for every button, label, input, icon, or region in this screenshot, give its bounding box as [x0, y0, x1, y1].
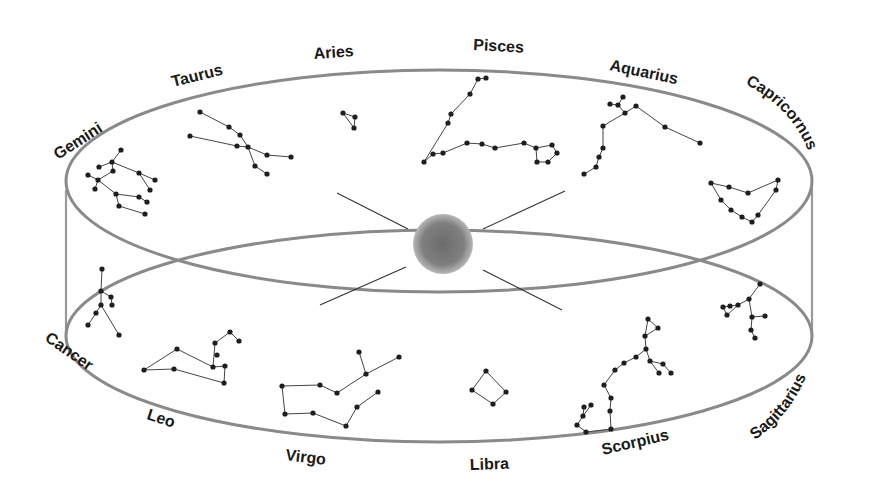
star-icon: [221, 380, 226, 385]
star-icon: [549, 142, 554, 147]
star-icon: [343, 423, 348, 428]
star-icon: [660, 361, 665, 366]
constellation-line: [472, 371, 506, 404]
star-icon: [356, 349, 361, 354]
star-icon: [340, 110, 345, 115]
star-icon: [93, 310, 98, 315]
star-icon: [98, 302, 103, 307]
star-icon: [612, 367, 617, 372]
star-icon: [588, 402, 593, 407]
star-icon: [96, 164, 101, 169]
star-icon: [317, 382, 322, 387]
star-icon: [533, 145, 538, 150]
sun-icon: [413, 214, 473, 274]
star-icon: [615, 102, 620, 107]
star-icon: [469, 387, 474, 392]
star-icon: [773, 187, 778, 192]
star-icon: [234, 143, 239, 148]
label-cancer: Cancer: [42, 329, 96, 374]
star-icon: [608, 426, 613, 431]
star-icon: [351, 125, 356, 130]
star-icon: [440, 150, 445, 155]
constellation-line: [625, 106, 700, 143]
constellation-pisces: [421, 75, 559, 164]
star-icon: [467, 91, 472, 96]
star-icon: [720, 304, 725, 309]
label-gemini: Gemini: [50, 119, 105, 163]
constellation-aries: [340, 110, 357, 130]
star-icon: [279, 383, 284, 388]
constellation-cancer: [85, 266, 121, 337]
star-icon: [596, 154, 601, 159]
constellation-taurus: [187, 109, 293, 176]
star-icon: [464, 140, 469, 145]
star-icon: [607, 408, 612, 413]
star-icon: [222, 363, 227, 368]
star-icon: [593, 164, 598, 169]
star-icon: [152, 177, 157, 182]
constellation-capricornus: [708, 177, 780, 224]
star-icon: [601, 382, 606, 387]
constellation-line: [359, 352, 399, 374]
star-icon: [718, 197, 723, 202]
star-icon: [492, 145, 497, 150]
star-icon: [214, 352, 219, 357]
star-icon: [197, 109, 202, 114]
star-icon: [620, 94, 625, 99]
star-icon: [748, 327, 753, 332]
star-icon: [749, 219, 754, 224]
star-icon: [113, 191, 118, 196]
star-icon: [656, 370, 661, 375]
star-icon: [116, 332, 121, 337]
star-icon: [92, 186, 97, 191]
constellation-line: [584, 113, 625, 174]
star-icon: [479, 141, 484, 146]
label-capricornus: Capricornus: [744, 72, 822, 153]
star-icon: [363, 371, 368, 376]
label-libra: Libra: [470, 455, 510, 473]
star-icon: [110, 168, 115, 173]
star-icon: [647, 358, 652, 363]
star-icon: [642, 333, 647, 338]
star-icon: [580, 413, 585, 418]
star-icon: [739, 214, 744, 219]
star-icon: [608, 395, 613, 400]
label-taurus: Taurus: [170, 61, 225, 90]
zodiac-diagram: Gemini Taurus Aries Pisces Aquarius Capr…: [0, 0, 877, 498]
star-icon: [600, 145, 605, 150]
label-capricornus-path: Capricornus: [744, 72, 822, 153]
star-icon: [622, 110, 627, 115]
constellation-leo: [141, 329, 241, 385]
star-icon: [85, 172, 90, 177]
star-icon: [645, 316, 650, 321]
star-icon: [144, 199, 149, 204]
star-icon: [448, 111, 453, 116]
constellation-libra: [469, 368, 508, 406]
star-icon: [245, 144, 250, 149]
constellation-scorpius: [574, 316, 673, 434]
star-icon: [643, 346, 648, 351]
star-icon: [662, 124, 667, 129]
star-icon: [310, 410, 315, 415]
star-icon: [174, 346, 179, 351]
constellation-line: [749, 299, 765, 317]
constellation-line: [200, 112, 248, 147]
star-icon: [727, 303, 732, 308]
star-icon: [136, 194, 141, 199]
star-icon: [697, 140, 702, 145]
star-icon: [226, 124, 231, 129]
constellation-aquarius: [581, 94, 702, 176]
constellation-line: [144, 332, 239, 383]
constellation-line: [282, 374, 378, 426]
star-icon: [745, 190, 750, 195]
star-icon: [264, 152, 269, 157]
star-icon: [757, 281, 762, 286]
sun-ray-upper-left: [337, 193, 408, 229]
label-aries: Aries: [313, 42, 354, 62]
star-icon: [724, 312, 729, 317]
constellation-line: [424, 78, 486, 162]
star-icon: [108, 294, 113, 299]
star-icon: [445, 120, 450, 125]
constellation-line: [101, 305, 119, 335]
star-icon: [430, 151, 435, 156]
